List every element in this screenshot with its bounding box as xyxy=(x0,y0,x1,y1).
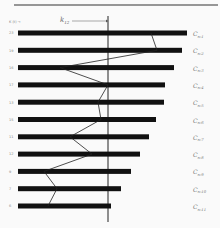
row-value: 13 xyxy=(9,101,13,105)
row-label: Cn-9 xyxy=(193,168,204,177)
row-label: Cn-4 xyxy=(193,82,204,91)
bar xyxy=(18,31,187,36)
row-value: 7 xyxy=(9,187,11,191)
bar xyxy=(18,186,121,191)
row-value: 11 xyxy=(9,135,13,139)
bar xyxy=(18,117,156,122)
row-value: 12 xyxy=(9,152,13,156)
row-value: 15 xyxy=(9,118,13,122)
row-label: Cn-10 xyxy=(193,186,207,195)
row-label: Cn-5 xyxy=(193,99,204,108)
row-value: 23 xyxy=(9,31,13,35)
bar xyxy=(18,82,165,87)
bar xyxy=(18,204,111,209)
row-value: 16 xyxy=(9,66,13,70)
bar-diagram: K (t) → k12 23Cn-119Cn-216Cn-317Cn-413Cn… xyxy=(0,0,220,228)
header-label: K (t) → xyxy=(9,20,21,24)
row-value: 19 xyxy=(9,49,13,53)
row-label: Cn-2 xyxy=(193,47,204,56)
threshold-label: k12 xyxy=(60,16,70,25)
row-label: Cn-3 xyxy=(193,65,204,74)
row-value: 17 xyxy=(9,83,13,87)
row-value: 9 xyxy=(9,170,11,174)
bar xyxy=(18,100,164,105)
row-value: 6 xyxy=(9,204,11,208)
row-label: Cn-7 xyxy=(193,134,204,143)
row-label: Cn-6 xyxy=(193,117,204,126)
bar xyxy=(18,152,140,157)
row-label: Cn-11 xyxy=(193,203,206,212)
row-label: Cn-1 xyxy=(193,30,204,39)
row-label: Cn-8 xyxy=(193,151,204,160)
bar xyxy=(18,169,131,174)
bar xyxy=(18,65,174,70)
bar xyxy=(18,134,149,139)
